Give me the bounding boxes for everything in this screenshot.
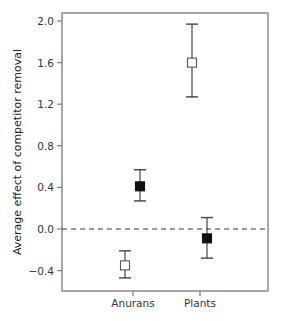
y-tick-label: 0.8 bbox=[37, 140, 54, 152]
y-axis-title: Average effect of competitor removal bbox=[11, 49, 24, 255]
plot-frame bbox=[62, 13, 268, 291]
data-points bbox=[119, 24, 213, 278]
y-axis-ticks: 2.01.61.20.80.40.0−0.4 bbox=[29, 15, 63, 277]
x-tick-label-plants: Plants bbox=[184, 297, 216, 309]
chart: 2.01.61.20.80.40.0−0.4 AnuransPlants Ave… bbox=[0, 0, 283, 321]
y-tick-label: 1.6 bbox=[37, 57, 54, 69]
y-tick-label: 1.2 bbox=[37, 98, 54, 110]
x-axis-ticks: AnuransPlants bbox=[111, 291, 216, 309]
point-open-anurans bbox=[119, 251, 131, 278]
y-tick-label: 2.0 bbox=[37, 15, 54, 27]
y-tick-label: 0.0 bbox=[37, 223, 54, 235]
point-filled-plants bbox=[201, 218, 213, 259]
point-open-plants bbox=[186, 24, 198, 97]
y-tick-label: 0.4 bbox=[37, 181, 54, 193]
y-tick-label: −0.4 bbox=[29, 265, 55, 277]
x-tick-label-anurans: Anurans bbox=[111, 297, 154, 309]
point-filled-anurans bbox=[134, 170, 146, 201]
